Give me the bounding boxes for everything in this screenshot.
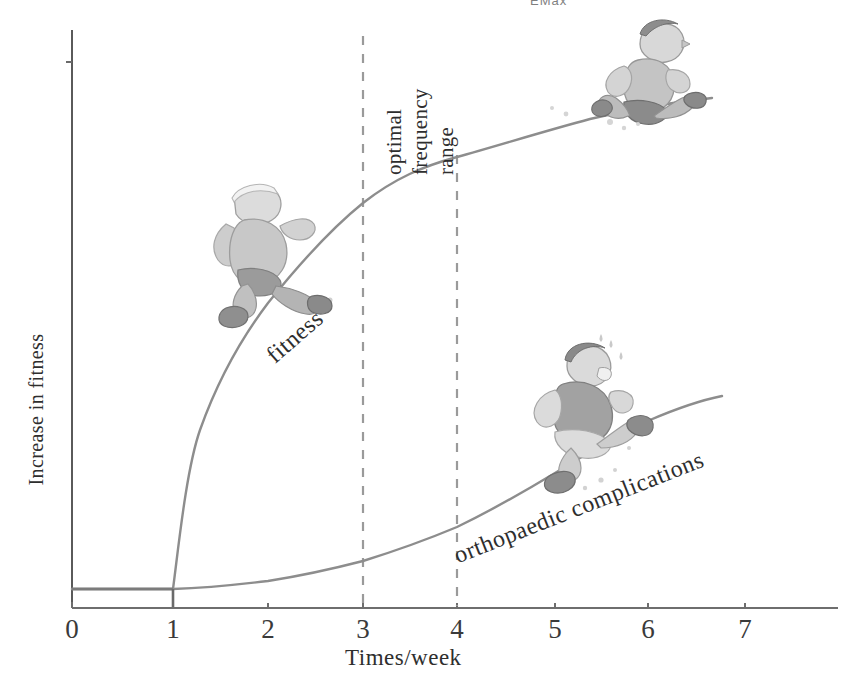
chart-figure: EMax 0 1 2 3 4 5 6 7 Times/week Increase…: [0, 0, 855, 696]
x-tick-label-2: 2: [248, 614, 288, 645]
x-tick-label-7: 7: [725, 614, 765, 645]
annotation-frequency: frequency: [408, 88, 433, 175]
x-tick-label-5: 5: [535, 614, 575, 645]
x-tick-label-3: 3: [343, 614, 383, 645]
annotation-range: range: [434, 127, 459, 175]
annotation-optimal: optimal: [382, 109, 407, 175]
x-tick-label-6: 6: [628, 614, 668, 645]
runner-figure-tired: [534, 334, 653, 493]
y-axis-title: Increase in fitness: [25, 315, 48, 505]
x-tick-label-4: 4: [437, 614, 477, 645]
x-tick-label-0: 0: [52, 614, 92, 645]
runner-figure-top: [550, 20, 706, 130]
top-cropped-text: EMax: [530, 0, 567, 8]
x-axis-title: Times/week: [345, 645, 462, 671]
runner-figure-mid: [214, 184, 333, 327]
x-tick-label-1: 1: [153, 614, 193, 645]
